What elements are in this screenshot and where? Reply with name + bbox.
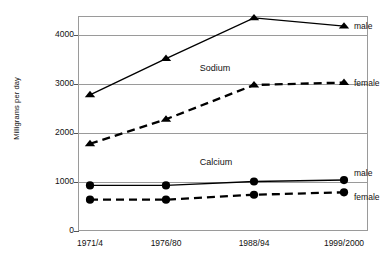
x-axis-tick-label: 1988/94 [239, 238, 270, 248]
x-axis-tick-label: 1971/4 [77, 238, 103, 248]
series-marker [340, 188, 348, 196]
y-axis-tick-mark [74, 231, 79, 232]
x-axis-tick-label: 1999/2000 [324, 238, 364, 248]
series-end-label: female [354, 192, 380, 202]
series-group-label: Calcium [200, 157, 233, 167]
y-axis-tick-labels: 01000200030004000 [38, 0, 74, 255]
series-marker [162, 181, 170, 189]
series-marker [250, 191, 258, 199]
series-lines [78, 16, 368, 231]
series-marker [86, 196, 94, 204]
chart-figure: Milligrams per day 01000200030004000 Sod… [0, 0, 388, 255]
y-axis-tick-label: 0 [40, 226, 74, 235]
y-axis-title: Milligrams per day [12, 49, 21, 169]
series-marker [162, 196, 170, 204]
series-marker [86, 181, 94, 189]
y-axis-tick-label: 4000 [40, 30, 74, 39]
x-axis-tick-label: 1976/80 [151, 238, 182, 248]
series-line [90, 83, 344, 144]
series-end-label: female [354, 78, 380, 88]
y-axis-tick-label: 3000 [40, 79, 74, 88]
y-axis-tick-label: 1000 [40, 177, 74, 186]
plot-area: SodiumCalcium malefemalemalefemale [78, 16, 368, 231]
series-line [90, 192, 344, 199]
y-axis-tick-label: 2000 [40, 128, 74, 137]
series-marker [250, 177, 258, 185]
series-line [90, 180, 344, 185]
series-marker [340, 176, 348, 184]
series-marker [85, 91, 95, 97]
series-marker [249, 14, 259, 20]
series-end-label: male [354, 168, 372, 178]
series-end-label: male [354, 21, 372, 31]
series-group-label: Sodium [200, 63, 231, 73]
series-marker [249, 81, 259, 87]
series-marker [161, 55, 171, 61]
